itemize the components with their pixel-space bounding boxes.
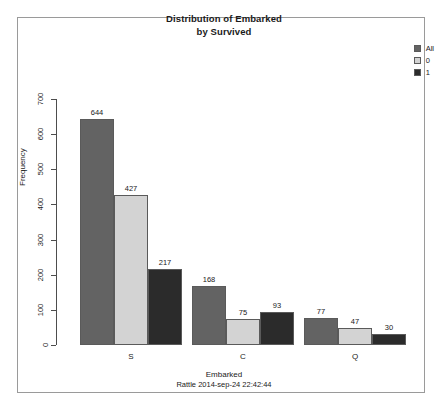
legend-item-label: All xyxy=(426,44,434,53)
bar-q-0 xyxy=(338,328,372,345)
chart-title: Distribution of Embarked by Survived xyxy=(0,12,448,38)
y-tick-mark xyxy=(51,345,56,346)
y-tick-mark xyxy=(51,99,56,100)
bar-c-all xyxy=(192,286,226,345)
legend-swatch-icon xyxy=(414,69,421,76)
x-axis-title: Embarked xyxy=(0,370,448,379)
plot-area: 6444272171687593774730 xyxy=(62,99,400,345)
legend-swatch-icon xyxy=(414,57,421,64)
legend-item-label: 1 xyxy=(426,68,430,77)
bar-value-label: 77 xyxy=(304,307,338,316)
bar-s-0 xyxy=(114,195,148,345)
y-tick-mark xyxy=(51,134,56,135)
bar-s-all xyxy=(80,119,114,345)
y-tick-label: 500 xyxy=(0,165,48,173)
bar-value-label: 47 xyxy=(338,317,372,326)
bar-value-label: 217 xyxy=(148,258,182,267)
bar-value-label: 644 xyxy=(80,108,114,117)
bar-s-1 xyxy=(148,269,182,345)
y-tick-label-text: 0 xyxy=(42,343,50,347)
bar-value-label: 168 xyxy=(192,275,226,284)
y-tick-mark xyxy=(51,310,56,311)
chart-legend: All01 xyxy=(414,44,434,77)
x-tick-label-s: S xyxy=(111,352,151,362)
y-tick-mark xyxy=(51,204,56,205)
x-tick-label-c: C xyxy=(223,352,263,362)
y-tick-mark xyxy=(51,240,56,241)
y-tick-label: 200 xyxy=(0,271,48,279)
y-tick-label: 300 xyxy=(0,236,48,244)
x-tick-label-q: Q xyxy=(335,352,375,362)
legend-swatch-icon xyxy=(414,45,421,52)
bar-value-label: 30 xyxy=(372,323,406,332)
y-axis-line xyxy=(56,99,57,345)
chart-title-line-1: Distribution of Embarked xyxy=(0,12,448,25)
bar-value-label: 93 xyxy=(260,301,294,310)
bar-c-0 xyxy=(226,319,260,345)
legend-item-label: 0 xyxy=(426,56,430,65)
chart-annotation-stamp: Rattle 2014-sep-24 22:42:44 xyxy=(0,380,448,389)
y-tick-label-text: 400 xyxy=(38,198,46,211)
bar-value-label: 75 xyxy=(226,308,260,317)
legend-item-0: 0 xyxy=(414,56,434,65)
legend-item-1: 1 xyxy=(414,68,434,77)
bar-q-all xyxy=(304,318,338,345)
y-tick-mark xyxy=(51,275,56,276)
y-tick-mark xyxy=(51,169,56,170)
bar-value-label: 427 xyxy=(114,184,148,193)
y-tick-label: 600 xyxy=(0,130,48,138)
y-tick-label: 0 xyxy=(0,341,48,349)
legend-item-all: All xyxy=(414,44,434,53)
y-tick-label: 400 xyxy=(0,200,48,208)
y-tick-label-text: 600 xyxy=(38,128,46,141)
y-tick-label-text: 300 xyxy=(38,233,46,246)
y-tick-label: 700 xyxy=(0,95,48,103)
y-tick-label-text: 200 xyxy=(38,268,46,281)
y-tick-label-text: 100 xyxy=(38,304,46,317)
bar-c-1 xyxy=(260,312,294,345)
bar-q-1 xyxy=(372,334,406,345)
y-tick-label-text: 700 xyxy=(38,93,46,106)
y-tick-label: 100 xyxy=(0,306,48,314)
y-tick-label-text: 500 xyxy=(38,163,46,176)
chart-title-line-2: by Survived xyxy=(0,25,448,38)
